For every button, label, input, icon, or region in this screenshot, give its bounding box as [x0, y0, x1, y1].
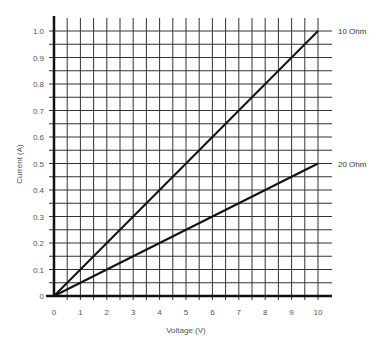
y-tick-label: 0.1 — [33, 266, 45, 275]
series-labels: 10 Ohm20 Ohm — [338, 27, 367, 169]
y-tick-label: 0.3 — [33, 213, 45, 222]
axes — [46, 16, 332, 297]
x-tick-label: 4 — [157, 308, 162, 317]
x-tick-label: 9 — [289, 308, 294, 317]
y-tick-label: 0 — [40, 292, 45, 301]
x-tick-label: 8 — [263, 308, 268, 317]
x-tick-label: 10 — [314, 308, 323, 317]
y-tick-label: 0.4 — [33, 186, 45, 195]
x-tick-label: 3 — [131, 308, 136, 317]
series-label: 20 Ohm — [338, 160, 367, 169]
y-tick-labels: 00.10.20.30.40.50.60.70.80.91.0 — [33, 27, 45, 301]
iv-chart: 012345678910 00.10.20.30.40.50.60.70.80.… — [0, 0, 381, 348]
series-label: 10 Ohm — [338, 27, 367, 36]
y-tick-label: 0.2 — [33, 239, 45, 248]
x-tick-label: 2 — [105, 308, 110, 317]
x-tick-labels: 012345678910 — [52, 308, 323, 317]
y-tick-label: 0.8 — [33, 80, 45, 89]
x-axis-label: Voltage (V) — [166, 326, 206, 335]
y-tick-label: 0.7 — [33, 107, 45, 116]
x-tick-label: 7 — [237, 308, 242, 317]
x-tick-label: 5 — [184, 308, 189, 317]
x-tick-label: 0 — [52, 308, 57, 317]
x-tick-label: 6 — [210, 308, 215, 317]
y-tick-label: 1.0 — [33, 27, 45, 36]
x-tick-label: 1 — [78, 308, 83, 317]
y-tick-label: 0.9 — [33, 54, 45, 63]
y-tick-label: 0.5 — [33, 160, 45, 169]
y-axis-label: Current (A) — [15, 144, 24, 184]
y-tick-label: 0.6 — [33, 133, 45, 142]
